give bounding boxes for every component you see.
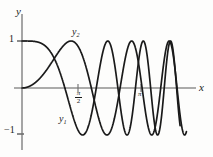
x-tick-label-pi-over-2: π 2 [75, 90, 82, 105]
x-axis-label: x [199, 82, 204, 93]
curve-label-y1: y1 [59, 114, 67, 125]
x-tick-label-pi: π [138, 90, 142, 98]
figure-canvas: y x 1 −1 y1 y2 π 2 π [0, 0, 213, 157]
y-tick-label-neg1: −1 [4, 125, 15, 135]
graph-svg [0, 0, 213, 157]
fraction-numerator: π [75, 90, 82, 97]
y-axis-label: y [16, 6, 21, 17]
curve-label-y2-subscript: 2 [76, 31, 79, 38]
curve-label-y2: y2 [72, 27, 80, 38]
y-tick-label-1: 1 [9, 34, 14, 44]
curve-label-y1-subscript: 1 [63, 118, 66, 125]
fraction-denominator: 2 [75, 98, 82, 105]
